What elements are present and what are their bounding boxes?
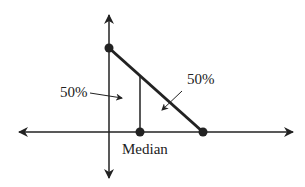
right-area-label: 50% <box>187 71 215 87</box>
right-area-pointer-arrow <box>162 91 182 110</box>
median-dot <box>136 128 145 137</box>
median-label: Median <box>122 141 168 157</box>
median-diagram: 50% 50% Median <box>0 0 305 187</box>
right-vertex-dot <box>199 128 208 137</box>
left-area-label: 50% <box>60 84 88 100</box>
left-area-pointer-arrow <box>90 93 122 98</box>
top-vertex-dot <box>105 44 114 53</box>
distribution-line <box>109 48 203 132</box>
